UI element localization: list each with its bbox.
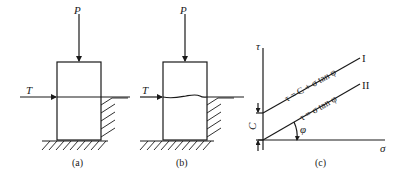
specimen-box	[57, 62, 101, 140]
panel-b: P T (b)	[140, 4, 244, 169]
sigma-axis-label: σ	[380, 142, 386, 154]
line-ii-equation: τ = σ tan φ	[298, 93, 339, 122]
intercept-c-label: C	[246, 122, 258, 130]
caption-b: (b)	[176, 157, 188, 169]
specimen-box	[163, 62, 207, 140]
shear-test-figure: P T (a) P	[0, 0, 404, 181]
side-hatch	[207, 98, 234, 137]
angle-arc	[294, 122, 297, 140]
angle-phi-label: φ	[300, 123, 306, 135]
line-ii-tag: II	[362, 79, 370, 91]
load-p-label: P	[179, 4, 187, 16]
ground-hatch	[42, 141, 108, 150]
side-hatch	[101, 98, 128, 137]
force-t-label: T	[142, 84, 149, 96]
panel-c: τ σ I II τ = C + σ tan φ τ = σ tan φ C φ…	[246, 40, 386, 169]
line-i-tag: I	[362, 52, 366, 64]
load-p-label: P	[73, 4, 81, 16]
ground-hatch	[140, 141, 214, 150]
panel-a: P T (a)	[20, 4, 130, 169]
tau-axis-label: τ	[256, 40, 261, 52]
wavy-shear-plane	[163, 95, 244, 98]
caption-c: (c)	[315, 157, 326, 169]
caption-a: (a)	[72, 157, 83, 169]
force-t-label: T	[26, 84, 33, 96]
